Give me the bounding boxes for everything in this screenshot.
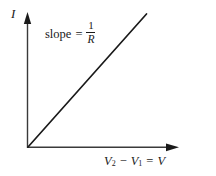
- x-axis-label-v1: V: [131, 155, 139, 168]
- x-axis-label-equals: =: [142, 155, 157, 168]
- slope-annotation: slope = 1 R: [45, 21, 95, 47]
- x-axis-arrowhead: [166, 143, 179, 151]
- x-axis-label: V2 − V1 = V: [104, 155, 165, 168]
- x-axis-label-v: V: [157, 155, 165, 168]
- slope-fraction-numerator: 1: [87, 20, 95, 32]
- slope-fraction: 1 R: [86, 20, 95, 46]
- slope-annotation-equals: =: [75, 28, 82, 41]
- slope-fraction-denominator: R: [86, 33, 95, 46]
- slope-annotation-word: slope: [45, 28, 71, 41]
- y-axis-arrowhead: [24, 12, 31, 24]
- graph-axes-and-line: [0, 0, 216, 176]
- y-axis-label: I: [11, 7, 15, 20]
- ohms-law-graph-figure: I slope = 1 R V2 − V1 = V: [0, 0, 216, 176]
- x-axis-label-v2: V: [104, 155, 112, 168]
- x-axis-label-minus: −: [116, 155, 131, 168]
